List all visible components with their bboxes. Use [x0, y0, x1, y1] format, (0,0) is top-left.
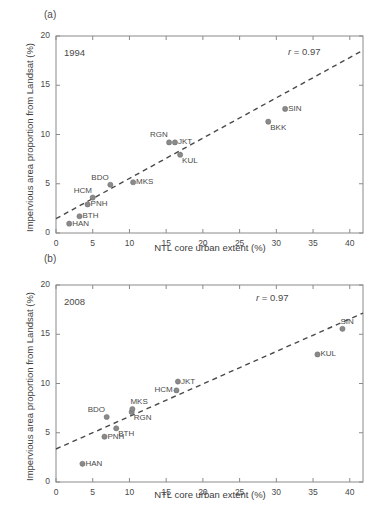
panel-b-year-label: 2008 — [64, 296, 85, 307]
y-tick-label: 15 — [32, 79, 50, 89]
panel-b-correlation-annotation: r = 0.97 — [256, 292, 289, 303]
data-point — [108, 182, 113, 187]
x-tick-label: 25 — [228, 487, 252, 497]
x-tick-label: 5 — [81, 487, 105, 497]
data-point-label: KUL — [320, 349, 336, 358]
data-point — [315, 352, 320, 357]
x-tick-label: 0 — [44, 487, 68, 497]
data-point-label: HCM — [74, 186, 92, 195]
y-tick-label: 0 — [32, 227, 50, 237]
data-point — [167, 140, 172, 145]
panel-a-year-label: 1994 — [64, 47, 85, 58]
y-tick-label: 20 — [32, 30, 50, 40]
x-tick-label: 35 — [301, 238, 325, 248]
x-tick-label: 35 — [301, 487, 325, 497]
data-point — [102, 434, 107, 439]
data-point-label: JKT — [181, 377, 195, 386]
data-point-label: BDO — [88, 405, 105, 414]
x-tick-label: 30 — [264, 238, 288, 248]
data-point — [131, 180, 136, 185]
data-point — [340, 326, 345, 331]
x-tick-label: 5 — [81, 238, 105, 248]
x-tick-label: 0 — [44, 238, 68, 248]
data-point-label: JKT — [178, 137, 192, 146]
x-tick-label: 20 — [191, 487, 215, 497]
data-point-label: SIN — [340, 317, 353, 326]
data-point-label: HAN — [85, 459, 102, 468]
y-tick-label: 15 — [32, 328, 50, 338]
panel-a-plot-area — [0, 0, 383, 256]
regression-line — [56, 313, 363, 449]
data-point-label: RGN — [150, 130, 168, 139]
data-point-label: PNH — [91, 199, 108, 208]
data-point — [175, 379, 180, 384]
figure-scatter-comparison: (a) 1994 r = 0.97 Impervious area propor… — [0, 0, 383, 512]
data-point-label: BKK — [270, 123, 286, 132]
panel-b-letter: (b) — [44, 253, 56, 264]
x-tick-label: 15 — [154, 487, 178, 497]
data-point-label: RGN — [134, 413, 152, 422]
x-tick-label: 30 — [264, 487, 288, 497]
data-point — [80, 461, 85, 466]
x-tick-label: 10 — [117, 238, 141, 248]
y-tick-label: 0 — [32, 476, 50, 486]
data-point-label: HCM — [154, 385, 172, 394]
y-tick-label: 10 — [32, 378, 50, 388]
plot-frame — [56, 285, 363, 482]
panel-a-r-value: = 0.97 — [291, 46, 320, 57]
data-point-label: MKS — [130, 397, 147, 406]
panel-a-correlation-annotation: r = 0.97 — [288, 46, 321, 57]
panel-a-letter: (a) — [44, 9, 56, 20]
panel-b: (b) 2008 r = 0.97 Impervious area propor… — [0, 256, 383, 512]
y-tick-label: 20 — [32, 279, 50, 289]
x-tick-label: 40 — [338, 238, 362, 248]
data-point — [67, 221, 72, 226]
data-point — [283, 106, 288, 111]
data-point — [172, 140, 177, 145]
y-tick-label: 5 — [32, 427, 50, 437]
data-point-label: BTH — [83, 211, 99, 220]
x-tick-label: 40 — [338, 487, 362, 497]
data-point — [85, 202, 90, 207]
x-tick-label: 20 — [191, 238, 215, 248]
data-point-label: BTH — [118, 429, 134, 438]
data-point — [174, 388, 179, 393]
y-tick-label: 5 — [32, 178, 50, 188]
data-point-label: MKS — [136, 177, 153, 186]
regression-line — [56, 50, 363, 218]
x-tick-label: 25 — [228, 238, 252, 248]
data-point-label: BDO — [91, 173, 108, 182]
x-tick-label: 15 — [154, 238, 178, 248]
data-point-label: SIN — [288, 104, 301, 113]
x-tick-label: 10 — [117, 487, 141, 497]
data-point — [104, 414, 109, 419]
y-tick-label: 10 — [32, 129, 50, 139]
panel-a: (a) 1994 r = 0.97 Impervious area propor… — [0, 0, 383, 256]
data-point-label: KUL — [182, 156, 198, 165]
panel-b-r-value: = 0.97 — [259, 292, 288, 303]
data-point — [130, 407, 135, 412]
